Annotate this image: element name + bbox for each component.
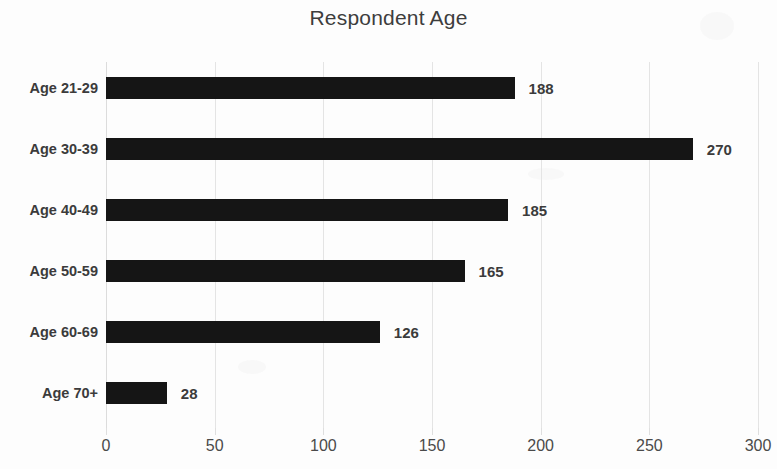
- tick-mark-0: [106, 428, 107, 435]
- x-tick-label: 200: [527, 437, 554, 455]
- y-category-label: Age 21-29: [0, 80, 98, 96]
- x-tick-label: 100: [310, 437, 337, 455]
- y-category-label: Age 70+: [0, 385, 98, 401]
- y-axis-labels: Age 21-29Age 30-39Age 40-49Age 50-59Age …: [0, 62, 98, 428]
- gridline-0: [106, 62, 107, 428]
- gridline-250: [649, 62, 650, 428]
- y-category-label: Age 60-69: [0, 324, 98, 340]
- tick-mark-50: [215, 428, 216, 435]
- bar-value-label: 270: [707, 140, 732, 157]
- gridline-150: [432, 62, 433, 428]
- x-tick-label: 50: [206, 437, 224, 455]
- tick-mark-300: [758, 428, 759, 435]
- plot-area: 18827018516512628: [106, 62, 758, 428]
- gridline-200: [541, 62, 542, 428]
- chart-container: Respondent Age 18827018516512628 0501001…: [0, 0, 777, 469]
- x-axis-labels: 050100150200250300: [0, 437, 777, 461]
- x-tick-label: 150: [419, 437, 446, 455]
- y-category-label: Age 50-59: [0, 263, 98, 279]
- bar[interactable]: [106, 382, 167, 404]
- bar[interactable]: [106, 321, 380, 343]
- x-tick-label: 0: [102, 437, 111, 455]
- gridline-300: [758, 62, 759, 428]
- bar-value-label: 165: [479, 262, 504, 279]
- bar[interactable]: [106, 260, 465, 282]
- bar[interactable]: [106, 199, 508, 221]
- bar-value-label: 188: [529, 79, 554, 96]
- bar-value-label: 28: [181, 384, 198, 401]
- x-tick-label: 250: [636, 437, 663, 455]
- bar-value-label: 185: [522, 201, 547, 218]
- x-tick-label: 300: [745, 437, 772, 455]
- chart-title: Respondent Age: [0, 6, 777, 30]
- tick-mark-100: [323, 428, 324, 435]
- y-category-label: Age 40-49: [0, 202, 98, 218]
- tick-mark-200: [541, 428, 542, 435]
- gridline-100: [323, 62, 324, 428]
- y-category-label: Age 30-39: [0, 141, 98, 157]
- gridline-50: [215, 62, 216, 428]
- tick-mark-250: [649, 428, 650, 435]
- bar[interactable]: [106, 138, 693, 160]
- bar[interactable]: [106, 77, 515, 99]
- x-axis-tick-marks: [106, 428, 758, 435]
- bar-value-label: 126: [394, 323, 419, 340]
- tick-mark-150: [432, 428, 433, 435]
